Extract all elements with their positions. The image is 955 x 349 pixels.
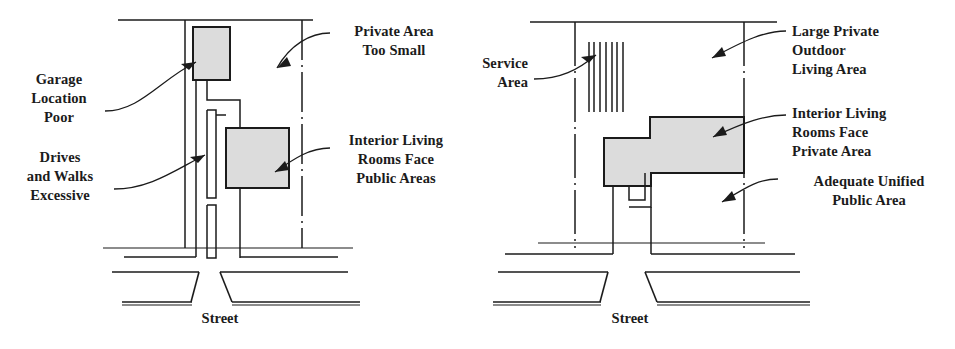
label-interior-living-rooms-face-private-area: Interior Living Rooms Face Private Area (792, 104, 952, 161)
right-service-area-hatch (589, 42, 623, 112)
right-street (493, 254, 810, 305)
left-street (112, 257, 360, 305)
label-drives-and-walks-excessive: Drives and Walks Excessive (8, 148, 112, 205)
label-large-private-outdoor-living-area: Large Private Outdoor Living Area (792, 22, 952, 79)
right-street-label: Street (565, 310, 695, 327)
left-house-building (226, 128, 289, 188)
label-interior-living-rooms-face-public-areas: Interior Living Rooms Face Public Areas (334, 131, 458, 188)
label-adequate-unified-public-area: Adequate Unified Public Area (786, 172, 952, 210)
label-garage-location-poor: Garage Location Poor (10, 70, 108, 127)
left-street-label: Street (155, 310, 285, 327)
site-plan-comparison-figure: Garage Location Poor Drives and Walks Ex… (0, 0, 955, 349)
label-private-area-too-small: Private Area Too Small (334, 22, 454, 60)
label-service-area: Service Area (456, 54, 528, 92)
left-garage-building (193, 27, 230, 80)
